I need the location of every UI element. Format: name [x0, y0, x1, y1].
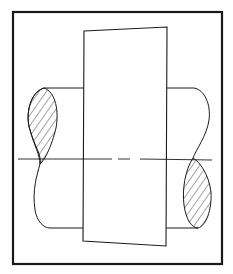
hatched-section-right: [183, 158, 211, 228]
technical-drawing: [0, 0, 233, 274]
hatched-section-left: [28, 88, 57, 164]
hub-rectangle: [83, 27, 167, 246]
